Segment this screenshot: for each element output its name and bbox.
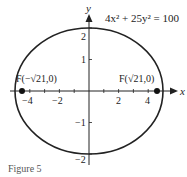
focus-point-left (19, 88, 25, 94)
y-tick-label: 1 (81, 54, 86, 65)
ellipse-equation: 4x² + 25y² = 100 (105, 12, 180, 24)
x-tick-label: 4 (145, 95, 150, 106)
y-axis-arrow-icon (86, 14, 93, 22)
focus-label-left: F(−√21,0) (16, 73, 57, 85)
x-tick-label: 2 (116, 95, 121, 106)
y-tick-label: −1 (75, 117, 86, 128)
x-tick-label: −2 (52, 95, 63, 106)
y-axis-label: y (85, 2, 91, 14)
y-tick-label: −2 (75, 154, 86, 165)
x-axis-label: x (179, 85, 185, 97)
x-tick-label: −4 (22, 95, 33, 106)
focus-point-right (154, 88, 160, 94)
focus-label-right: F(√21,0) (119, 73, 154, 85)
y-tick-label: 2 (81, 31, 86, 42)
figure-caption: Figure 5 (8, 163, 42, 174)
x-axis-arrow-icon (170, 88, 178, 95)
ellipse-diagram: x y −4 −2 2 4 2 1 −1 −2 F(−√21,0) F(√21,… (0, 0, 187, 177)
